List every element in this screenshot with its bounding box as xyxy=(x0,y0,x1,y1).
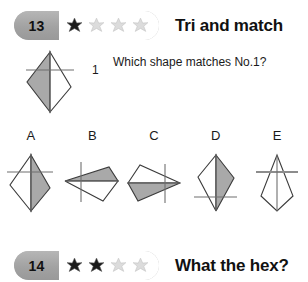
puzzle-title-14: What the hex? xyxy=(175,256,289,276)
option-e[interactable]: E xyxy=(246,128,308,214)
star-icon-empty xyxy=(110,17,127,34)
kite-down-right-shaded-icon xyxy=(190,152,242,214)
option-label-c: C xyxy=(149,128,158,143)
question-text: Which shape matches No.1? xyxy=(113,55,266,69)
star-icon-empty xyxy=(132,257,149,274)
star-rating-13 xyxy=(59,11,159,40)
star-icon-filled xyxy=(88,257,105,274)
kite-right-bottom-shaded-icon xyxy=(124,157,184,209)
star-icon-empty xyxy=(88,17,105,34)
option-a[interactable]: A xyxy=(0,128,62,214)
kite-up-right-shaded-icon xyxy=(5,152,57,214)
puzzle-header-14: 14 What the hex? xyxy=(14,251,289,280)
option-shape-b xyxy=(62,152,122,214)
star-icon-filled xyxy=(66,17,83,34)
option-shape-a xyxy=(5,152,57,214)
kite-left-top-shaded-icon xyxy=(62,157,122,209)
puzzle-title-13: Tri and match xyxy=(175,16,283,36)
difficulty-badge-14[interactable]: 14 xyxy=(14,251,159,280)
option-shape-d xyxy=(190,152,242,214)
option-shape-c xyxy=(124,152,184,214)
reference-shape-row: 1 xyxy=(22,49,99,115)
difficulty-badge-13[interactable]: 13 xyxy=(14,11,159,40)
puzzle-header-13: 13 Tri and match xyxy=(14,11,283,40)
option-label-b: B xyxy=(88,128,97,143)
puzzle-number-14: 14 xyxy=(14,251,59,280)
option-label-d: D xyxy=(211,128,220,143)
option-label-a: A xyxy=(26,128,35,143)
star-icon-empty xyxy=(110,257,127,274)
reference-shape-label: 1 xyxy=(92,63,99,77)
kite-up-unshaded-icon xyxy=(253,152,301,214)
option-d[interactable]: D xyxy=(185,128,247,214)
star-icon-empty xyxy=(132,17,149,34)
puzzle-number-13: 13 xyxy=(14,11,59,40)
options-row: A B C xyxy=(0,128,308,214)
star-icon-filled xyxy=(66,257,83,274)
reference-shape-kite-left-shaded xyxy=(22,49,78,115)
option-c[interactable]: C xyxy=(123,128,185,214)
option-label-e: E xyxy=(273,128,282,143)
star-rating-14 xyxy=(59,251,159,280)
option-b[interactable]: B xyxy=(62,128,124,214)
option-shape-e xyxy=(253,152,301,214)
